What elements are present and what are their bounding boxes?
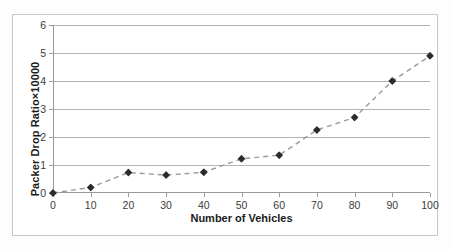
x-axis-title: Number of Vehicles (53, 212, 430, 224)
x-tick-label: 0 (50, 199, 56, 211)
y-tick-label: 4 (40, 75, 46, 87)
y-tick-label: 2 (40, 131, 46, 143)
x-tick-label: 10 (85, 199, 97, 211)
x-tick-label: 100 (421, 199, 439, 211)
x-tick-label: 60 (273, 199, 285, 211)
data-series (53, 25, 430, 193)
data-point-marker (201, 169, 207, 175)
x-tick-label: 50 (236, 199, 248, 211)
x-tick-mark (242, 193, 243, 197)
x-tick-mark (128, 193, 129, 197)
x-tick-label: 70 (311, 199, 323, 211)
x-tick-mark (317, 193, 318, 197)
x-tick-mark (392, 193, 393, 197)
data-point-marker (50, 190, 56, 196)
data-point-marker (238, 156, 244, 162)
x-tick-mark (91, 193, 92, 197)
x-tick-label: 40 (198, 199, 210, 211)
x-tick-label: 20 (123, 199, 135, 211)
x-tick-mark (204, 193, 205, 197)
series-line (53, 56, 430, 193)
y-tick-label: 5 (40, 47, 46, 59)
x-axis-title-text: Number of Vehicles (190, 212, 292, 224)
data-point-marker (352, 114, 358, 120)
chart-frame: Packer Drop Ratio×10000 Number of Vehicl… (12, 14, 438, 236)
y-tick-label: 1 (40, 159, 46, 171)
x-tick-label: 90 (386, 199, 398, 211)
x-tick-mark (166, 193, 167, 197)
y-tick-label: 3 (40, 103, 46, 115)
data-point-marker (427, 53, 433, 59)
x-tick-label: 80 (349, 199, 361, 211)
data-point-marker (163, 172, 169, 178)
y-axis-title: Packer Drop Ratio×10000 (27, 29, 43, 229)
y-tick-label: 0 (40, 187, 46, 199)
x-tick-label: 30 (160, 199, 172, 211)
data-point-marker (125, 169, 131, 175)
x-tick-mark (355, 193, 356, 197)
y-tick-label: 6 (40, 19, 46, 31)
data-point-marker (88, 184, 94, 190)
x-tick-mark (430, 193, 431, 197)
x-tick-mark (279, 193, 280, 197)
plot-area: 0123456 0102030405060708090100 (53, 25, 430, 193)
scanned-page: Packer Drop Ratio×10000 Number of Vehicl… (0, 0, 450, 250)
